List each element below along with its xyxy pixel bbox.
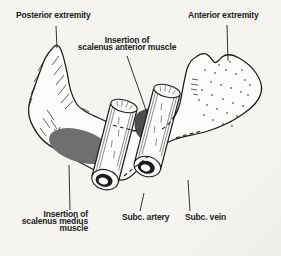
leader-subc-vein [188, 180, 190, 211]
leader-scalenus-medius [69, 165, 70, 210]
label-subc-artery: Subc. artery [122, 214, 169, 221]
leader-posterior-extremity [56, 26, 57, 48]
first-rib-anatomy-figure: Posterior extremity Anterior extremity I… [0, 0, 281, 256]
label-posterior-extremity: Posterior extremity [16, 12, 91, 19]
label-insertion-scalenus-anterior: Insertion of scalenus anterior muscle [70, 37, 184, 51]
label-subc-vein: Subc. vein [185, 214, 226, 221]
leader-subc-artery [140, 193, 144, 211]
label-anterior-extremity: Anterior extremity [188, 12, 259, 19]
label-insertion-scalenus-medius: Insertion of scalenus medius muscle [8, 211, 88, 233]
